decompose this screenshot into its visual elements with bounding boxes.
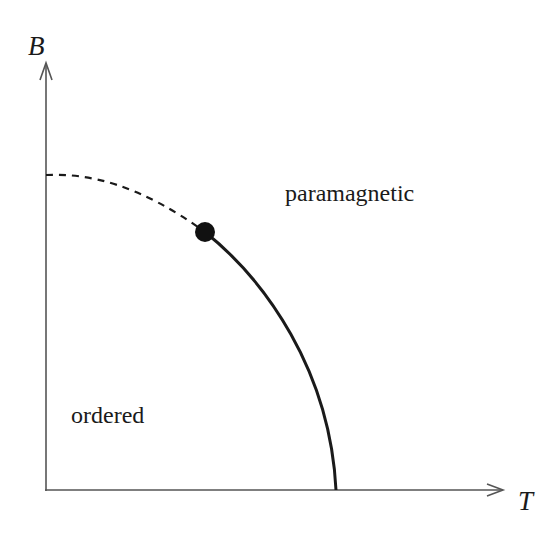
x-axis: T bbox=[45, 484, 535, 516]
solid-phase-boundary bbox=[205, 232, 336, 490]
critical-point-marker bbox=[195, 222, 215, 242]
region-label-paramagnetic: paramagnetic bbox=[285, 180, 414, 206]
y-axis: B bbox=[28, 31, 52, 491]
phase-diagram: B T paramagnetic ordered bbox=[0, 0, 554, 536]
x-axis-label: T bbox=[518, 486, 535, 516]
y-axis-label: B bbox=[28, 31, 45, 61]
dashed-phase-boundary bbox=[46, 175, 205, 232]
region-label-ordered: ordered bbox=[71, 402, 144, 428]
